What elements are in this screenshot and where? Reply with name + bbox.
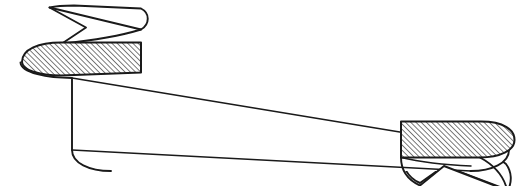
illustration-canvas xyxy=(0,0,527,186)
ribbon-banner-svg xyxy=(0,0,527,186)
